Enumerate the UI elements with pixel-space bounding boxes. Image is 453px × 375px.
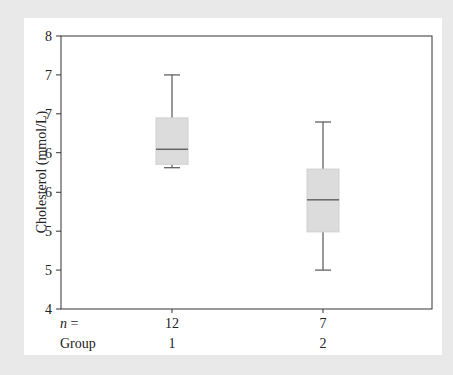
y-tick-label: 8: [45, 29, 52, 44]
box-group-1: [156, 75, 188, 168]
n-label: n =: [60, 316, 79, 331]
plot-frame: [61, 36, 432, 309]
group-axis-label: Group: [60, 336, 96, 351]
n-value: 12: [165, 316, 179, 331]
group-value: 2: [320, 336, 327, 351]
y-tick-label: 7: [45, 68, 52, 83]
plot-border: [61, 36, 432, 309]
y-tick-label: 4: [45, 302, 52, 317]
x-axis: 12172: [165, 309, 327, 351]
boxes: [156, 75, 339, 270]
box-plot: 87766554 12172 Cholesterol (mmol/L) n = …: [0, 0, 453, 375]
box-group-2: [307, 122, 339, 270]
group-value: 1: [169, 336, 176, 351]
y-tick-label: 5: [45, 263, 52, 278]
y-axis-title: Cholesterol (mmol/L): [34, 110, 50, 233]
iqr-box: [156, 118, 188, 164]
n-value: 7: [320, 316, 327, 331]
